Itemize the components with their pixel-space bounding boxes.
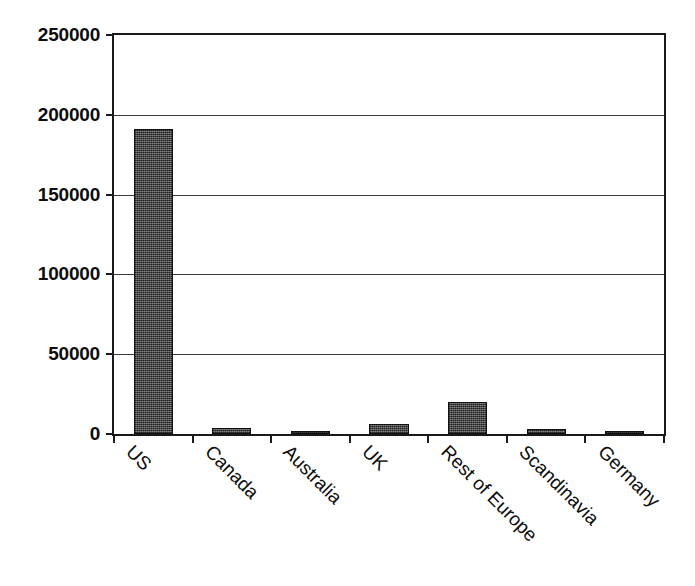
y-axis-tick-label: 0 bbox=[90, 423, 100, 445]
x-axis-category-label: US bbox=[122, 441, 156, 475]
bar[interactable] bbox=[448, 402, 487, 434]
bar[interactable] bbox=[291, 431, 330, 434]
x-axis-category-label: Canada bbox=[200, 441, 263, 504]
y-axis-tick-label: 200000 bbox=[38, 104, 100, 126]
y-axis-tick-label: 250000 bbox=[38, 24, 100, 46]
bars-group bbox=[114, 35, 664, 434]
bar[interactable] bbox=[134, 129, 173, 434]
plot-area: 050000100000150000200000250000 bbox=[112, 33, 666, 436]
x-axis-labels: USCanadaAustraliaUKRest of EuropeScandin… bbox=[112, 441, 662, 581]
bar[interactable] bbox=[527, 429, 566, 434]
bar[interactable] bbox=[212, 428, 251, 434]
bar-chart: 050000100000150000200000250000 USCanadaA… bbox=[0, 0, 695, 586]
y-axis-tick-label: 100000 bbox=[38, 263, 100, 285]
bar[interactable] bbox=[369, 424, 408, 434]
x-axis-category-label: Australia bbox=[279, 441, 347, 509]
y-axis-tick-label: 150000 bbox=[38, 184, 100, 206]
y-axis-tick bbox=[106, 34, 114, 36]
bar[interactable] bbox=[605, 431, 644, 435]
y-axis-tick-label: 50000 bbox=[48, 343, 100, 365]
y-axis-tick bbox=[106, 114, 114, 116]
y-axis-tick bbox=[106, 194, 114, 196]
x-axis-category-label: UK bbox=[357, 441, 391, 475]
y-axis-tick bbox=[106, 273, 114, 275]
x-axis-tick bbox=[663, 434, 665, 443]
y-axis-tick bbox=[106, 353, 114, 355]
x-axis-category-label: Germany bbox=[593, 441, 664, 512]
